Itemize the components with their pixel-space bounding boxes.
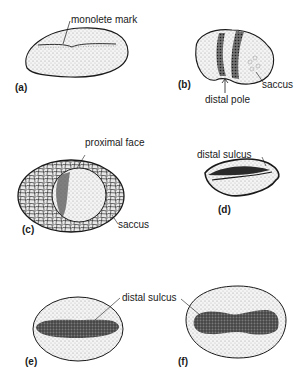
annotation-monolete-mark: monolete mark	[71, 15, 137, 25]
annotation-saccus-b: saccus	[262, 80, 293, 90]
pollen-grain-a	[26, 21, 128, 77]
panel-label-a: (a)	[15, 83, 27, 93]
annotation-saccus-c: saccus	[118, 220, 149, 230]
panel-label-b: (b)	[178, 80, 191, 90]
diagram-canvas	[0, 0, 306, 371]
annotation-distal-pole: distal pole	[205, 95, 250, 105]
annotation-proximal-face: proximal face	[85, 138, 144, 148]
panel-label-f: (f)	[178, 357, 188, 367]
pollen-grain-f	[186, 286, 286, 358]
panel-label-d: (d)	[218, 205, 231, 215]
annotation-distal-sulcus-d: distal sulcus	[197, 150, 251, 160]
pollen-grain-c	[18, 155, 124, 232]
panel-label-c: (c)	[22, 225, 34, 235]
pollen-grain-d	[205, 157, 279, 196]
pollen-grain-e	[33, 297, 123, 361]
annotation-distal-sulcus-shared: distal sulcus	[122, 293, 176, 303]
panel-label-e: (e)	[25, 357, 37, 367]
